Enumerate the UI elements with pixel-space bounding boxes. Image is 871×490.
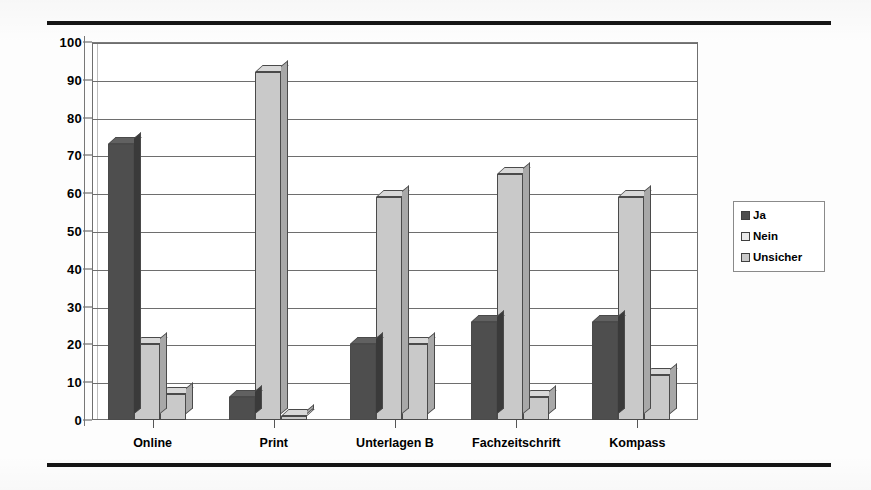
legend-item-ja[interactable]: Ja [741, 209, 818, 221]
y-axis-tick-label: 30 [67, 299, 82, 314]
bar-side-face [618, 310, 625, 414]
x-axis-label-unterlagen-b: Unterlagen B [356, 436, 434, 450]
legend-item-label: Unsicher [753, 251, 802, 263]
y-axis-tick-label: 20 [67, 337, 82, 352]
bar-side-face [670, 363, 677, 414]
legend-item-label: Ja [753, 209, 766, 221]
bar-ja-online [108, 144, 134, 420]
legend-item-label: Nein [753, 230, 778, 242]
x-axis-label-print: Print [260, 436, 288, 450]
y-axis-tick-label: 60 [67, 186, 82, 201]
white-swatch [741, 232, 750, 241]
x-axis-tick-mark [637, 420, 638, 428]
y-axis-tick-label: 100 [59, 35, 82, 50]
bar-side-face [134, 132, 141, 414]
bar-front-face [471, 322, 497, 420]
bottom-horizontal-rule [47, 463, 831, 467]
y-axis-tick-label: 10 [67, 375, 82, 390]
bar-side-face [160, 333, 167, 414]
bar-group [213, 42, 334, 420]
bar-front-face [350, 344, 376, 420]
x-axis-tick-mark [395, 420, 396, 428]
bar-front-face [108, 144, 134, 420]
y-axis-tick-label: 40 [67, 261, 82, 276]
bars-layer [92, 42, 698, 420]
bar-side-face [549, 385, 556, 414]
bar-side-face [402, 185, 409, 414]
bar-side-face [497, 310, 504, 414]
bar-front-face [281, 416, 307, 420]
bar-group [92, 42, 213, 420]
y-axis-tick-label: 0 [74, 413, 82, 428]
x-axis-label-online: Online [133, 436, 172, 450]
bar-side-face [428, 333, 435, 414]
chart-legend: JaNeinUnsicher [733, 201, 825, 272]
bar-ja-unterlagen-b [350, 344, 376, 420]
bar-front-face [255, 72, 281, 420]
x-axis-tick-mark [274, 420, 275, 428]
y-axis-tick-label: 80 [67, 110, 82, 125]
light-gray-swatch [741, 253, 750, 262]
bar-ja-kompass [592, 322, 618, 420]
x-axis-label-kompass: Kompass [609, 436, 665, 450]
chart-figure: 0102030405060708090100 OnlinePrintUnterl… [0, 0, 871, 490]
x-axis-label-fachzeitschrift: Fachzeitschrift [472, 436, 560, 450]
bar-unsicher-print [281, 416, 307, 420]
bar-side-face [186, 382, 193, 414]
top-horizontal-rule [47, 21, 831, 25]
x-axis-tick-mark [153, 420, 154, 428]
bar-group [334, 42, 455, 420]
bar-group [456, 42, 577, 420]
legend-item-nein[interactable]: Nein [741, 230, 818, 242]
y-axis-tick-label: 70 [67, 148, 82, 163]
bar-side-face [523, 162, 530, 414]
bar-group [577, 42, 698, 420]
x-axis: OnlinePrintUnterlagen BFachzeitschriftKo… [92, 420, 712, 460]
y-axis-tick-label: 50 [67, 224, 82, 239]
y-axis-tick-label: 90 [67, 72, 82, 87]
bar-side-face [644, 185, 651, 414]
bar-front-face [592, 322, 618, 420]
bar-side-face [281, 60, 288, 414]
bar-ja-print [229, 397, 255, 420]
legend-item-unsicher[interactable]: Unsicher [741, 251, 818, 263]
x-axis-tick-mark [516, 420, 517, 428]
bar-side-face [376, 333, 383, 414]
bar-ja-fachzeitschrift [471, 322, 497, 420]
bar-nein-print [255, 72, 281, 420]
dark-gray-swatch [741, 211, 750, 220]
bar-front-face [229, 397, 255, 420]
